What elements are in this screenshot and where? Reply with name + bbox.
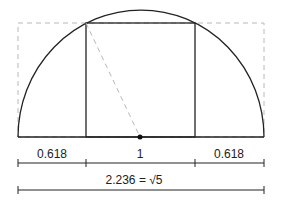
semicircle-arc	[18, 10, 264, 137]
segment-label-right: 0.618	[214, 147, 244, 161]
total-length-label: 2.236 = √5	[106, 173, 163, 187]
radius-dashed-line	[86, 23, 140, 137]
segment-label-middle: 1	[137, 147, 144, 161]
dashed-golden-rectangle	[18, 23, 264, 137]
segment-label-left: 0.618	[37, 147, 67, 161]
center-point	[138, 135, 143, 140]
unit-square	[86, 23, 195, 137]
total-dimension-line	[18, 186, 264, 194]
